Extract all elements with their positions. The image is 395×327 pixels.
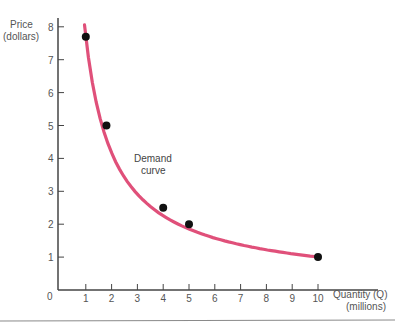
data-point: [314, 253, 322, 261]
x-tick-label: 2: [109, 293, 115, 304]
data-point: [159, 204, 167, 212]
bottom-rule: [0, 320, 395, 321]
x-tick-label: 6: [212, 293, 218, 304]
x-tick-label: 10: [312, 293, 324, 304]
demand-chart: 12345678 12345678910 Price (dollars) Qua…: [0, 0, 395, 327]
demand-curve: [85, 25, 319, 257]
origin-label: 0: [47, 291, 53, 302]
x-tick-label: 1: [83, 293, 89, 304]
data-points: [82, 33, 322, 261]
y-tick-label: 3: [48, 186, 54, 197]
y-tick-label: 5: [48, 121, 54, 132]
x-axis-subtitle: (millions): [346, 301, 386, 312]
x-tick-label: 4: [160, 293, 166, 304]
demand-curve-label: Demand: [134, 153, 172, 164]
y-tick-label: 2: [48, 219, 54, 230]
y-axis-ticks: 12345678: [48, 22, 64, 263]
x-tick-label: 7: [238, 293, 244, 304]
y-tick-label: 1: [48, 252, 54, 263]
y-tick-label: 7: [48, 55, 54, 66]
x-axis-ticks: 12345678910: [83, 284, 324, 304]
y-tick-label: 8: [48, 22, 54, 33]
data-point: [82, 33, 90, 41]
y-tick-label: 4: [48, 153, 54, 164]
y-axis-title: Price: [10, 19, 33, 30]
x-tick-label: 8: [264, 293, 270, 304]
x-tick-label: 3: [135, 293, 141, 304]
x-axis-title: Quantity (Q): [333, 289, 387, 300]
y-axis-subtitle: (dollars): [3, 31, 39, 42]
y-tick-label: 6: [48, 88, 54, 99]
data-point: [185, 220, 193, 228]
x-tick-label: 9: [289, 293, 295, 304]
demand-curve-label-2: curve: [141, 165, 166, 176]
x-tick-label: 5: [186, 293, 192, 304]
data-point: [102, 122, 110, 130]
